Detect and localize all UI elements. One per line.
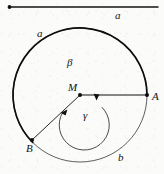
- label-scale-a: a: [115, 10, 121, 21]
- point-dots-group: [30, 93, 149, 142]
- figure-canvas: [0, 0, 164, 174]
- point-dot-M: [78, 93, 82, 97]
- scale-bar-endpoint-dot: [8, 5, 12, 9]
- label-outer-circle-a: a: [37, 28, 43, 39]
- label-point-M: M: [68, 82, 77, 93]
- gamma-arrowhead-at-MA: [94, 94, 100, 101]
- label-point-A: A: [152, 91, 159, 102]
- rays-group: [32, 95, 147, 140]
- label-angle-gamma: γ: [83, 110, 87, 121]
- geometry-figure: a a b β γ M A B: [0, 0, 164, 174]
- label-angle-beta: β: [67, 57, 72, 68]
- angle-arrowheads-group: [61, 94, 100, 116]
- label-outer-circle-b: b: [118, 152, 124, 163]
- ray-MB: [32, 95, 80, 140]
- point-dot-A: [145, 93, 149, 97]
- scale-bar-group: [8, 5, 158, 9]
- outer-circle-thick-arc: [13, 28, 147, 142]
- label-point-B: B: [26, 143, 33, 154]
